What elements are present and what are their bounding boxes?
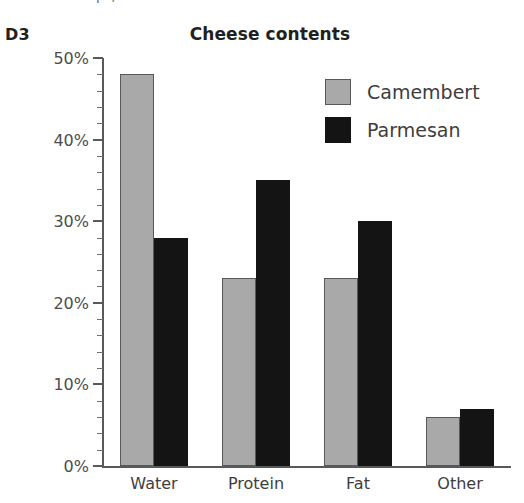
cheese-contents-bar-chart: D3 Cheese contents 0%10%20%30%40%50% Wat…	[0, 0, 524, 503]
bar-camembert-protein	[222, 278, 256, 466]
y-axis-minor-tick	[97, 433, 103, 434]
y-axis-tick-label: 20%	[53, 293, 89, 312]
chart-legend: CamembertParmesan	[325, 73, 480, 149]
bar-camembert-fat	[324, 278, 358, 466]
y-axis-minor-tick	[97, 270, 103, 271]
y-axis-minor-tick	[97, 352, 103, 353]
bar-parmesan-fat	[358, 221, 392, 466]
legend-label-parmesan: Parmesan	[367, 119, 461, 141]
legend-label-camembert: Camembert	[367, 81, 480, 103]
x-axis-label-other: Other	[437, 474, 482, 493]
y-axis-minor-tick	[97, 335, 103, 336]
legend-item-camembert: Camembert	[325, 73, 480, 111]
bar-parmesan-other	[460, 409, 494, 466]
y-axis-minor-tick	[97, 123, 103, 124]
y-axis-major-tick	[93, 220, 103, 222]
y-axis-minor-tick	[97, 417, 103, 418]
y-axis-minor-tick	[97, 401, 103, 402]
y-axis-minor-tick	[97, 172, 103, 173]
y-axis-tick-label: 30%	[53, 212, 89, 231]
y-axis-major-tick	[93, 139, 103, 141]
y-axis-major-tick	[93, 465, 103, 467]
y-axis-minor-tick	[97, 368, 103, 369]
y-axis-major-tick	[93, 383, 103, 385]
bar-parmesan-protein	[256, 180, 290, 466]
y-axis-minor-tick	[97, 74, 103, 75]
legend-swatch-parmesan	[325, 117, 351, 143]
y-axis-minor-tick	[97, 205, 103, 206]
y-axis-tick-label: 40%	[53, 130, 89, 149]
y-axis-line	[102, 58, 104, 467]
y-axis-major-tick	[93, 302, 103, 304]
bar-camembert-water	[120, 74, 154, 466]
y-axis-minor-tick	[97, 286, 103, 287]
exercise-label: D3	[5, 25, 30, 44]
legend-swatch-camembert	[325, 79, 351, 105]
y-axis-minor-tick	[97, 238, 103, 239]
chart-title: Cheese contents	[100, 24, 440, 44]
y-axis-minor-tick	[97, 254, 103, 255]
x-axis-line	[102, 466, 511, 468]
x-axis-label-protein: Protein	[228, 474, 284, 493]
y-axis-tick-label: 50%	[53, 49, 89, 68]
y-axis-minor-tick	[97, 107, 103, 108]
legend-item-parmesan: Parmesan	[325, 111, 480, 149]
y-axis-major-tick	[93, 57, 103, 59]
y-axis-minor-tick	[97, 91, 103, 92]
y-axis-minor-tick	[97, 319, 103, 320]
y-axis-tick-label: 10%	[53, 375, 89, 394]
x-axis-label-water: Water	[130, 474, 177, 493]
x-axis-label-fat: Fat	[346, 474, 370, 493]
bar-parmesan-water	[154, 238, 188, 466]
y-axis-minor-tick	[97, 156, 103, 157]
bar-camembert-other	[426, 417, 460, 466]
y-axis-minor-tick	[97, 189, 103, 190]
y-axis-tick-label: 0%	[64, 457, 89, 476]
y-axis-minor-tick	[97, 450, 103, 451]
